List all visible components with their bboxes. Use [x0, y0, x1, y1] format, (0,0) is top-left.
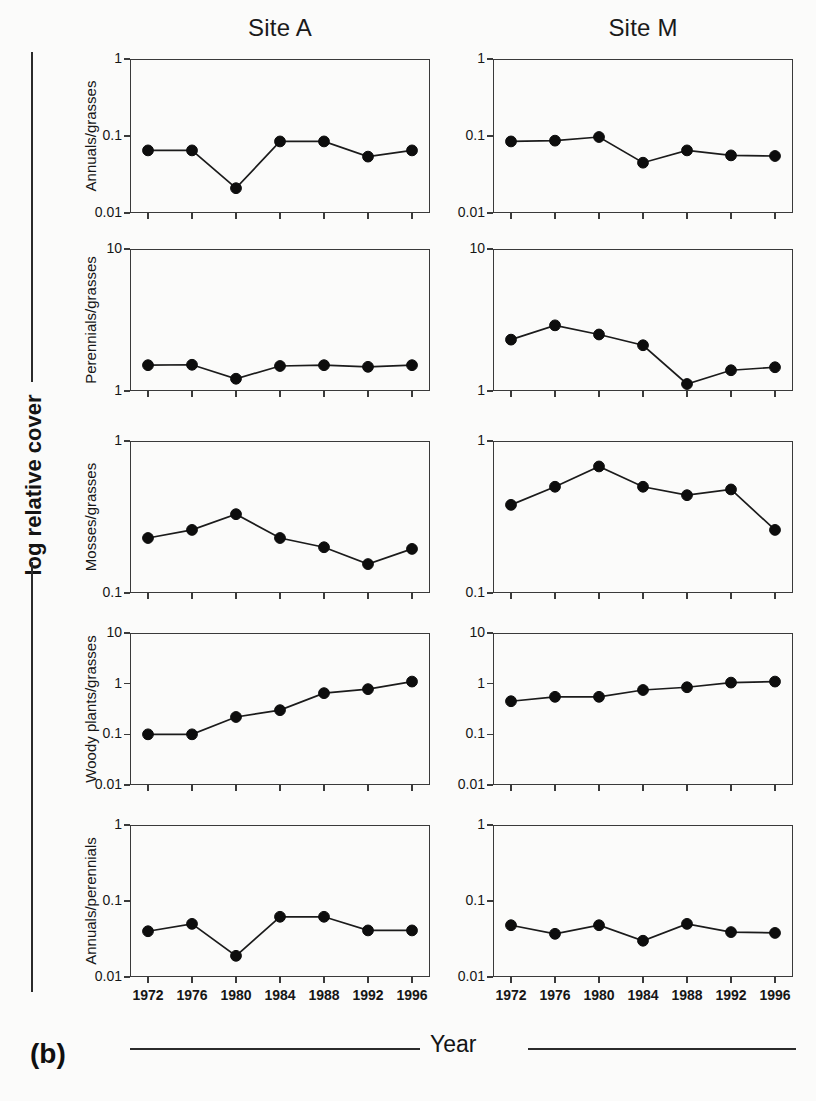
- y-tick-label: 1: [429, 675, 485, 691]
- x-tick: [730, 593, 732, 599]
- x-tick: [235, 785, 237, 791]
- x-tick: [642, 977, 644, 983]
- x-tick: [411, 213, 413, 219]
- x-tick: [191, 977, 193, 983]
- y-tick: [487, 824, 493, 826]
- x-tick: [554, 213, 556, 219]
- y-tick: [487, 58, 493, 60]
- x-tick: [279, 977, 281, 983]
- x-tick: [367, 391, 369, 397]
- x-tick: [235, 391, 237, 397]
- y-tick: [487, 632, 493, 634]
- x-tick: [147, 593, 149, 599]
- x-tick: [235, 593, 237, 599]
- x-tick: [598, 391, 600, 397]
- y-tick: [487, 440, 493, 442]
- figure-panel-b: Site A Site M log relative cover 10.10.0…: [0, 0, 816, 1101]
- y-tick: [487, 135, 493, 137]
- x-tick: [147, 391, 149, 397]
- x-tick: [323, 785, 325, 791]
- row-label-annuals-grasses: Annuals/grasses: [82, 59, 99, 213]
- plot-box: [493, 249, 793, 391]
- x-tick: [554, 977, 556, 983]
- y-tick-label: 0.1: [429, 892, 485, 908]
- plot-box: [130, 633, 430, 785]
- plot-box: [493, 59, 793, 213]
- y-tick: [124, 212, 130, 214]
- x-tick: [510, 213, 512, 219]
- x-tick: [730, 213, 732, 219]
- y-tick: [124, 248, 130, 250]
- x-axis-label: Year: [430, 1031, 476, 1058]
- y-tick: [487, 212, 493, 214]
- x-tick: [642, 593, 644, 599]
- x-tick: [642, 391, 644, 397]
- y-tick-label: 0.1: [429, 584, 485, 600]
- row-label-perennials-grasses: Perennials/grasses: [82, 249, 99, 391]
- x-tick: [598, 977, 600, 983]
- x-tick: [235, 977, 237, 983]
- x-tick-label: 1996: [385, 987, 439, 1003]
- x-tick: [686, 213, 688, 219]
- x-tick: [642, 213, 644, 219]
- row-label-annuals-perennials: Annuals/perennials: [82, 825, 99, 977]
- x-tick: [730, 977, 732, 983]
- y-tick: [124, 390, 130, 392]
- y-tick-label: 0.01: [429, 776, 485, 792]
- y-axis-label: log relative cover: [21, 355, 47, 615]
- panel-letter: (b): [30, 1038, 66, 1070]
- x-tick: [367, 593, 369, 599]
- row-label-mosses-grasses: Mosses/grasses: [82, 441, 99, 593]
- plot-box: [493, 825, 793, 977]
- plot-box: [130, 441, 430, 593]
- x-tick: [554, 593, 556, 599]
- x-tick: [774, 785, 776, 791]
- plot-box: [130, 59, 430, 213]
- x-tick: [367, 977, 369, 983]
- y-tick: [487, 900, 493, 902]
- x-tick: [279, 213, 281, 219]
- column-title-site-a: Site A: [130, 14, 430, 42]
- y-tick-label: 0.1: [429, 725, 485, 741]
- x-tick: [598, 785, 600, 791]
- y-tick-label: 0.1: [429, 127, 485, 143]
- x-tick: [191, 593, 193, 599]
- x-tick: [730, 785, 732, 791]
- y-tick-label: 10: [429, 240, 485, 256]
- y-tick: [124, 58, 130, 60]
- y-tick: [124, 632, 130, 634]
- y-tick-label: 1: [429, 50, 485, 66]
- x-tick: [323, 213, 325, 219]
- y-tick: [124, 784, 130, 786]
- y-tick-label: 1: [429, 382, 485, 398]
- y-tick: [487, 784, 493, 786]
- x-tick: [323, 391, 325, 397]
- y-tick: [487, 390, 493, 392]
- y-axis-rule-top: [31, 52, 33, 382]
- x-tick: [774, 593, 776, 599]
- x-tick: [598, 593, 600, 599]
- y-tick: [487, 976, 493, 978]
- x-tick: [774, 977, 776, 983]
- x-tick: [191, 785, 193, 791]
- x-tick: [279, 785, 281, 791]
- y-tick-label: 1: [429, 432, 485, 448]
- x-tick: [411, 977, 413, 983]
- plot-box: [130, 825, 430, 977]
- x-tick: [323, 977, 325, 983]
- x-tick: [774, 391, 776, 397]
- y-tick: [487, 248, 493, 250]
- y-tick: [124, 976, 130, 978]
- y-tick-label: 0.01: [429, 968, 485, 984]
- x-tick: [191, 213, 193, 219]
- y-tick-label: 10: [429, 624, 485, 640]
- x-tick: [147, 785, 149, 791]
- y-tick: [487, 592, 493, 594]
- y-axis-rule-bottom: [31, 562, 33, 992]
- x-tick: [686, 593, 688, 599]
- x-tick: [147, 213, 149, 219]
- x-tick: [411, 391, 413, 397]
- y-tick: [124, 683, 130, 685]
- x-tick: [147, 977, 149, 983]
- x-tick: [598, 213, 600, 219]
